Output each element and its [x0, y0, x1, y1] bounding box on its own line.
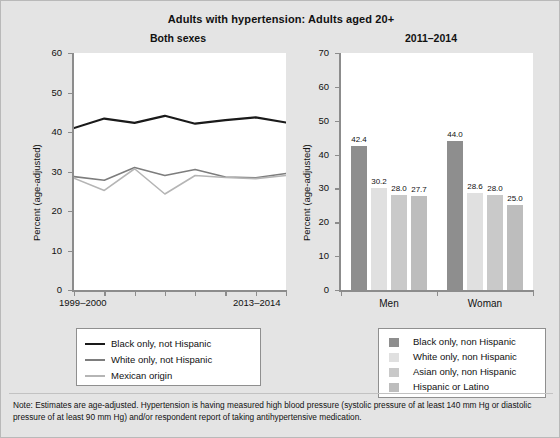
legend-bar-label-3: Hispanic or Latino: [413, 381, 489, 392]
left-y-tick-50: 50: [36, 88, 62, 98]
bar-men-0: [351, 146, 367, 290]
legend-label-0: Black only, not Hispanic: [111, 338, 211, 349]
bar-woman-0: [447, 141, 463, 290]
bar-men-1: [371, 188, 387, 290]
right-y-tick-10: 10: [303, 251, 329, 261]
right-chart-plot-area: [341, 53, 533, 290]
right-panel-title: 2011–2014: [331, 32, 531, 44]
legend-bar-swatch-0: [389, 338, 399, 347]
figure-page: Adults with hypertension: Adults aged 20…: [0, 0, 560, 438]
legend-label-1: White only, not Hispanic: [111, 354, 212, 365]
bar-label-woman-2: 28.0: [480, 184, 510, 193]
legend-bar-swatch-2: [389, 368, 399, 377]
right-y-tick-60: 60: [303, 82, 329, 92]
figure-main-title: Adults with hypertension: Adults aged 20…: [1, 13, 560, 25]
bar-label-woman-0: 44.0: [440, 130, 470, 139]
left-y-tick-10: 10: [36, 246, 62, 256]
legend-line-swatch-2: [85, 375, 105, 377]
legend-label-2: Mexican origin: [111, 370, 172, 381]
left-y-tick-0: 0: [36, 285, 62, 295]
left-chart-x-label-end: 2013–2014: [233, 297, 281, 308]
legend-bar-swatch-1: [389, 353, 399, 362]
bar-men-3: [411, 196, 427, 290]
left-y-tick-60: 60: [36, 48, 62, 58]
left-chart-y-axis-title: Percent (age-adjusted): [31, 144, 42, 241]
group-label-woman: Woman: [437, 298, 533, 309]
left-chart-legend: Black only, not HispanicWhite only, not …: [76, 328, 261, 386]
legend-bar-label-0: Black only, non Hispanic: [413, 336, 516, 347]
right-y-tick-70: 70: [303, 48, 329, 58]
figure-footnote: Note: Estimates are age-adjusted. Hypert…: [13, 399, 541, 423]
right-chart-legend: Black only, non HispanicWhite only, non …: [378, 328, 546, 398]
left-chart-x-label-start: 1999–2000: [59, 297, 107, 308]
bar-woman-2: [487, 195, 503, 290]
left-y-tick-40: 40: [36, 127, 62, 137]
legend-bar-label-2: Asian only, non Hispanic: [413, 366, 516, 377]
bar-woman-3: [507, 205, 523, 290]
right-y-tick-0: 0: [303, 285, 329, 295]
bar-label-men-3: 27.7: [404, 185, 434, 194]
bar-label-woman-3: 25.0: [500, 194, 530, 203]
right-y-tick-50: 50: [303, 116, 329, 126]
legend-line-swatch-0: [85, 343, 105, 345]
bar-label-men-0: 42.4: [344, 135, 374, 144]
legend-bar-swatch-3: [389, 383, 399, 392]
bar-woman-1: [467, 193, 483, 290]
footnote-divider: [9, 393, 553, 394]
group-label-men: Men: [341, 298, 437, 309]
line-series-0: [74, 116, 286, 128]
left-chart-lines: [74, 53, 286, 290]
right-chart-y-axis-title: Percent (age-adjusted): [301, 144, 312, 241]
legend-bar-label-1: White only, non Hispanic: [413, 351, 517, 362]
left-chart-plot-area: [74, 53, 286, 290]
legend-line-swatch-1: [85, 359, 105, 361]
left-panel-title: Both sexes: [63, 32, 293, 44]
bar-men-2: [391, 195, 407, 290]
